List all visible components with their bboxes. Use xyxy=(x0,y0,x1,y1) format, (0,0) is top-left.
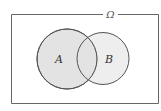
venn-diagram: Ω A B xyxy=(0,0,161,111)
universe-label: Ω xyxy=(105,9,114,20)
set-b-label: B xyxy=(104,53,113,66)
set-a-label: A xyxy=(54,53,63,66)
set-b-circle xyxy=(77,33,129,85)
